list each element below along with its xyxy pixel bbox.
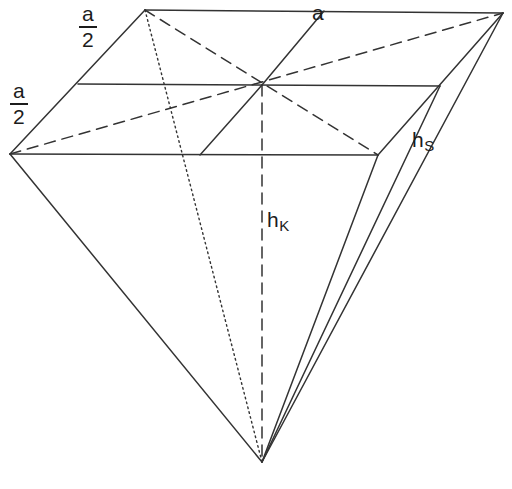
- lateral-edge-tr-apex: [262, 13, 503, 462]
- base-edge-bottom: [10, 154, 378, 155]
- height-pyramid-symbol: h: [267, 208, 279, 231]
- label-height-pyramid: hK: [267, 209, 289, 233]
- fraction-numerator: a: [79, 3, 97, 26]
- label-half-edge-top: a 2: [79, 3, 97, 51]
- fraction-a-over-2-left: a 2: [10, 80, 28, 128]
- fraction-a-over-2-top: a 2: [79, 3, 97, 51]
- lines-layer: [10, 10, 503, 462]
- label-height-slant: hS: [412, 129, 434, 153]
- fraction-denominator: 2: [10, 105, 28, 128]
- lateral-edge-br-apex: [262, 155, 378, 462]
- pyramid-diagram: a a 2 a 2 hK hS: [0, 0, 512, 489]
- base-edge-right: [378, 13, 503, 155]
- label-edge-a: a: [312, 2, 324, 23]
- fraction-numerator: a: [10, 80, 28, 103]
- height-slant-symbol: h: [412, 128, 424, 151]
- base-edge-left: [10, 10, 145, 154]
- height-slant-subscript: S: [424, 137, 435, 154]
- midline-lower-oblique: [200, 85, 262, 155]
- lateral-edge-tl-apex: [145, 10, 262, 462]
- lateral-edge-bl-apex: [10, 154, 262, 462]
- geometry-canvas: [0, 0, 512, 489]
- height-pyramid-subscript: K: [279, 217, 290, 234]
- fraction-denominator: 2: [79, 28, 97, 51]
- label-half-edge-left: a 2: [10, 80, 28, 128]
- midline-horizontal: [78, 84, 440, 86]
